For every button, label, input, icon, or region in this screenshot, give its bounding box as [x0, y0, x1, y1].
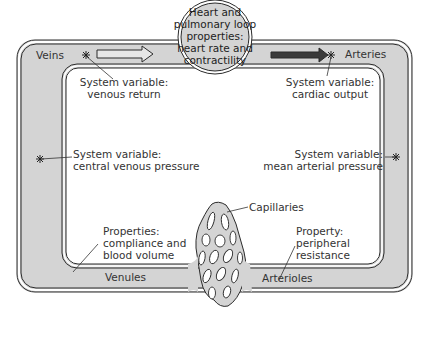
heart-line-3: properties:	[167, 30, 263, 42]
annotation-line: peripheral	[296, 237, 350, 249]
annotation-line: blood volume	[103, 249, 186, 261]
annotation-line: System variable:	[255, 148, 383, 160]
heart-line-2: pulmonary loop	[167, 18, 263, 30]
heart-line-1: Heart and	[167, 6, 263, 18]
venules-label: Venules	[105, 271, 146, 283]
annotation-line: Property:	[296, 225, 350, 237]
capillaries-label: Capillaries	[249, 201, 304, 213]
veins-label: Veins	[36, 49, 64, 61]
annotation-line: System variable:	[72, 76, 176, 88]
annotation-line: resistance	[296, 249, 350, 261]
annotation-peripheral-resistance: Property: peripheral resistance	[296, 225, 350, 261]
heart-line-4: heart rate and	[167, 42, 263, 54]
annotation-compliance: Properties: compliance and blood volume	[103, 225, 186, 261]
arteries-label: Arteries	[345, 48, 386, 60]
annotation-mean-arterial-pressure: System variable: mean arterial pressure	[255, 148, 383, 172]
asterisk-icon	[82, 51, 90, 59]
heart-label: Heart and pulmonary loop properties: hea…	[167, 6, 263, 66]
annotation-central-venous-pressure: System variable: central venous pressure	[73, 148, 200, 172]
annotation-line: compliance and	[103, 237, 186, 249]
heart-line-5: contractility	[167, 54, 263, 66]
arterioles-label: Arterioles	[262, 272, 313, 284]
annotation-line: Properties:	[103, 225, 186, 237]
annotation-line: System variable:	[280, 76, 380, 88]
annotation-line: cardiac output	[280, 88, 380, 100]
annotation-line: venous return	[72, 88, 176, 100]
annotation-cardiac-output: System variable: cardiac output	[280, 76, 380, 100]
annotation-line: mean arterial pressure	[255, 160, 383, 172]
annotation-line: System variable:	[73, 148, 200, 160]
capillary-bed	[188, 202, 252, 306]
annotation-venous-return: System variable: venous return	[72, 76, 176, 100]
annotation-line: central venous pressure	[73, 160, 200, 172]
